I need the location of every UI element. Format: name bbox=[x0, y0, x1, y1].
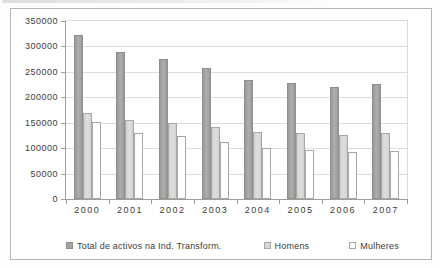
legend-swatch-mulheres bbox=[349, 242, 356, 249]
legend-label-mulheres: Mulheres bbox=[360, 241, 399, 251]
x-axis-tick-2 bbox=[151, 200, 152, 204]
bar-homens-2002 bbox=[168, 123, 177, 199]
bar-total-2004 bbox=[244, 80, 253, 199]
bar-homens-2006 bbox=[339, 135, 348, 199]
x-axis-tick-4 bbox=[237, 200, 238, 204]
y-axis-label-300000: 300000 bbox=[8, 41, 58, 51]
x-axis-tick-0 bbox=[66, 200, 67, 204]
bar-mulheres-2000 bbox=[92, 122, 101, 199]
x-axis-tick-3 bbox=[194, 200, 195, 204]
bar-homens-2007 bbox=[381, 133, 390, 199]
x-axis-tick-6 bbox=[322, 200, 323, 204]
bar-mulheres-2003 bbox=[220, 142, 229, 199]
x-axis-tick-1 bbox=[109, 200, 110, 204]
bar-total-2002 bbox=[159, 59, 168, 199]
y-axis-label-250000: 250000 bbox=[8, 67, 58, 77]
legend-label-total: Total de activos na Ind. Transform. bbox=[77, 241, 222, 251]
bar-total-2007 bbox=[372, 84, 381, 199]
bar-total-2003 bbox=[202, 68, 211, 199]
y-axis-label-0: 0 bbox=[8, 194, 58, 204]
bar-homens-2001 bbox=[125, 120, 134, 199]
plot-area: 0500001000001500002000002500003000003500… bbox=[65, 20, 408, 200]
gridline-300000 bbox=[66, 46, 407, 47]
legend-item-mulheres: Mulheres bbox=[349, 241, 399, 251]
legend-item-homens: Homens bbox=[264, 241, 310, 251]
bar-homens-2005 bbox=[296, 133, 305, 199]
y-axis-tick-0 bbox=[61, 199, 65, 200]
y-axis-tick-200000 bbox=[61, 97, 65, 98]
bar-mulheres-2004 bbox=[262, 148, 271, 199]
x-axis-label-2003: 2003 bbox=[194, 205, 236, 215]
bar-mulheres-2002 bbox=[177, 136, 186, 199]
x-axis-label-2005: 2005 bbox=[279, 205, 321, 215]
bar-total-2000 bbox=[74, 35, 83, 199]
bar-total-2005 bbox=[287, 83, 296, 199]
x-axis-label-2006: 2006 bbox=[322, 205, 364, 215]
legend-label-homens: Homens bbox=[275, 241, 310, 251]
x-axis-tick-8 bbox=[407, 200, 408, 204]
y-axis-tick-300000 bbox=[61, 46, 65, 47]
y-axis-label-200000: 200000 bbox=[8, 92, 58, 102]
legend-swatch-total bbox=[66, 242, 73, 249]
x-axis-label-2002: 2002 bbox=[152, 205, 194, 215]
bar-mulheres-2001 bbox=[134, 133, 143, 199]
bar-total-2001 bbox=[116, 52, 125, 199]
y-axis-label-350000: 350000 bbox=[8, 16, 58, 26]
y-axis-tick-150000 bbox=[61, 123, 65, 124]
x-axis-label-2000: 2000 bbox=[66, 205, 108, 215]
scan-artifact-smudge bbox=[2, 0, 322, 3]
x-axis-label-2001: 2001 bbox=[109, 205, 151, 215]
x-axis-label-2004: 2004 bbox=[237, 205, 279, 215]
y-axis-tick-250000 bbox=[61, 72, 65, 73]
legend-item-total: Total de activos na Ind. Transform. bbox=[66, 241, 222, 251]
legend-swatch-homens bbox=[264, 242, 271, 249]
x-axis-label-2007: 2007 bbox=[365, 205, 407, 215]
bar-homens-2000 bbox=[83, 113, 92, 199]
bar-total-2006 bbox=[330, 87, 339, 199]
y-axis-label-100000: 100000 bbox=[8, 143, 58, 153]
y-axis-tick-50000 bbox=[61, 174, 65, 175]
legend: Total de activos na Ind. Transform. Home… bbox=[60, 239, 400, 252]
y-axis-tick-100000 bbox=[61, 148, 65, 149]
y-axis-label-50000: 50000 bbox=[8, 169, 58, 179]
x-axis-tick-7 bbox=[364, 200, 365, 204]
x-axis-tick-5 bbox=[279, 200, 280, 204]
y-axis-tick-350000 bbox=[61, 21, 65, 22]
bar-mulheres-2005 bbox=[305, 150, 314, 199]
bar-mulheres-2006 bbox=[348, 152, 357, 199]
bar-homens-2004 bbox=[253, 132, 262, 199]
bar-mulheres-2007 bbox=[390, 151, 399, 199]
y-axis-label-150000: 150000 bbox=[8, 118, 58, 128]
y-axis-line bbox=[65, 21, 66, 199]
bar-homens-2003 bbox=[211, 127, 220, 199]
